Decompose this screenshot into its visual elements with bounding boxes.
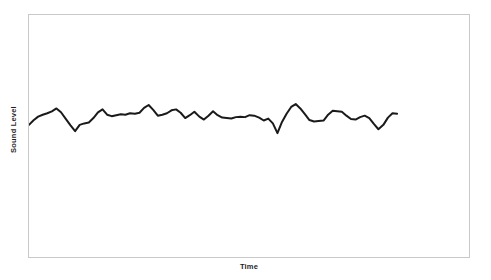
y-axis-label: Sound Level	[0, 0, 26, 280]
x-axis-label: Time	[28, 262, 470, 271]
line-series-sound-level	[29, 15, 469, 257]
chart-figure: Sound Level Time	[0, 0, 491, 280]
y-axis-label-text: Sound Level	[9, 106, 18, 153]
plot-frame	[28, 14, 470, 258]
data-polyline	[29, 104, 397, 133]
plot-area	[29, 15, 469, 257]
